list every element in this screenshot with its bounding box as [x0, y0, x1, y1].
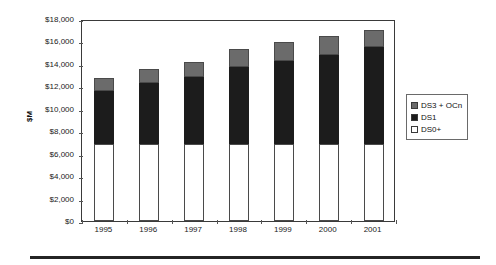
bar-segment-ds1[interactable] [319, 55, 339, 144]
x-axis-tick-label: 1996 [126, 225, 171, 235]
y-axis-tick-mark [79, 133, 83, 134]
bar-segment-ds0[interactable] [274, 144, 294, 221]
x-axis-tick-label: 2000 [305, 225, 350, 235]
y-axis-tick-mark [79, 201, 83, 202]
legend-swatch-icon [411, 126, 418, 133]
legend-item[interactable]: DS3 + OCn [411, 99, 462, 111]
bar-group[interactable] [364, 21, 384, 221]
x-axis-tick-label: 1998 [216, 225, 261, 235]
bar-group[interactable] [274, 21, 294, 221]
y-axis-tick-label: $8,000 [28, 128, 74, 136]
bar-segment-ds0[interactable] [229, 144, 249, 221]
bar-segment-ds0[interactable] [319, 144, 339, 221]
x-axis-tick-mark [82, 220, 83, 224]
bar-segment-ds1[interactable] [94, 91, 114, 144]
y-axis-tick-mark [79, 43, 83, 44]
legend-label: DS3 + OCn [421, 101, 462, 110]
stacked-bar[interactable] [184, 62, 204, 221]
bar-segment-ds3-ocn[interactable] [319, 36, 339, 55]
bar-segment-ds1[interactable] [139, 83, 159, 144]
x-axis-tick-mark [306, 220, 307, 224]
bar-segment-ds0[interactable] [139, 144, 159, 221]
plot-area [81, 20, 395, 222]
x-axis-tick-mark [396, 220, 397, 224]
x-axis-tick-label: 1995 [81, 225, 126, 235]
legend-label: DS0+ [421, 125, 441, 134]
bar-segment-ds0[interactable] [184, 144, 204, 221]
bar-segment-ds1[interactable] [364, 47, 384, 144]
y-axis-tick-labels: $0$2,000$4,000$6,000$8,000$10,000$12,000… [28, 0, 74, 265]
bar-segment-ds3-ocn[interactable] [184, 62, 204, 77]
bar-segment-ds3-ocn[interactable] [274, 42, 294, 61]
y-axis-tick-label: $4,000 [28, 173, 74, 181]
x-axis-tick-mark [261, 220, 262, 224]
y-axis-tick-mark [79, 88, 83, 89]
bar-group[interactable] [139, 21, 159, 221]
legend-swatch-icon [411, 102, 418, 109]
bar-segment-ds3-ocn[interactable] [139, 69, 159, 83]
y-axis-tick-label: $16,000 [28, 38, 74, 46]
bar-segment-ds1[interactable] [229, 67, 249, 144]
y-axis-tick-mark [79, 66, 83, 67]
stacked-bar[interactable] [364, 30, 384, 221]
x-axis-tick-mark [127, 220, 128, 224]
x-axis-tick-labels: 1995199619971998199920002001 [81, 225, 395, 239]
x-axis-tick-label: 1999 [260, 225, 305, 235]
bar-group[interactable] [184, 21, 204, 221]
bar-segment-ds1[interactable] [274, 61, 294, 144]
bar-group[interactable] [229, 21, 249, 221]
legend-item[interactable]: DS1 [411, 111, 462, 123]
legend-item[interactable]: DS0+ [411, 123, 462, 135]
y-axis-tick-mark [79, 178, 83, 179]
stacked-bar[interactable] [94, 78, 114, 221]
bar-segment-ds1[interactable] [184, 77, 204, 144]
bar-group[interactable] [319, 21, 339, 221]
y-axis-tick-label: $2,000 [28, 196, 74, 204]
bar-segment-ds3-ocn[interactable] [364, 30, 384, 47]
stacked-bar[interactable] [274, 42, 294, 221]
stacked-bar[interactable] [319, 36, 339, 221]
bar-segment-ds3-ocn[interactable] [229, 49, 249, 67]
stacked-bar[interactable] [229, 49, 249, 221]
bar-segment-ds0[interactable] [364, 144, 384, 221]
bottom-divider [30, 256, 480, 259]
bar-segment-ds3-ocn[interactable] [94, 78, 114, 91]
y-axis-tick-mark [79, 156, 83, 157]
y-axis-tick-mark [79, 111, 83, 112]
x-axis-tick-label: 1997 [171, 225, 216, 235]
legend-label: DS1 [421, 113, 437, 122]
bar-segment-ds0[interactable] [94, 144, 114, 221]
chart-legend: DS3 + OCnDS1DS0+ [406, 94, 468, 140]
y-axis-tick-label: $6,000 [28, 151, 74, 159]
x-axis-tick-label: 2001 [350, 225, 395, 235]
y-axis-tick-label: $10,000 [28, 106, 74, 114]
x-axis-tick-mark [217, 220, 218, 224]
y-axis-tick-label: $12,000 [28, 83, 74, 91]
x-axis-tick-mark [172, 220, 173, 224]
bar-chart-figure: $M $0$2,000$4,000$6,000$8,000$10,000$12,… [0, 0, 496, 265]
y-axis-tick-label: $14,000 [28, 61, 74, 69]
bars-layer [82, 21, 394, 221]
legend-swatch-icon [411, 114, 418, 121]
x-axis-tick-mark [351, 220, 352, 224]
y-axis-tick-label: $0 [28, 218, 74, 226]
y-axis-tick-label: $18,000 [28, 16, 74, 24]
stacked-bar[interactable] [139, 69, 159, 221]
y-axis-tick-mark [79, 21, 83, 22]
bar-group[interactable] [94, 21, 114, 221]
